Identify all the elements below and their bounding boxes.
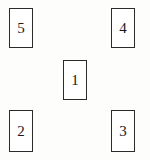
numbered-box-3[interactable]: 3 (111, 110, 135, 152)
diagram-canvas: 5 4 1 2 3 (0, 0, 150, 160)
numbered-box-5[interactable]: 5 (9, 8, 33, 48)
numbered-box-label: 3 (119, 123, 127, 138)
numbered-box-label: 1 (71, 72, 79, 87)
numbered-box-label: 5 (17, 20, 25, 35)
numbered-box-label: 4 (119, 20, 127, 35)
numbered-box-4[interactable]: 4 (111, 8, 135, 48)
numbered-box-label: 2 (17, 123, 25, 138)
numbered-box-1[interactable]: 1 (63, 60, 87, 100)
numbered-box-2[interactable]: 2 (9, 110, 33, 152)
